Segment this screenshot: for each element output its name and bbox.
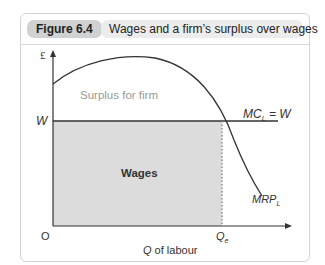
wages-region-label: Wages: [121, 167, 158, 179]
origin-label: O: [41, 230, 50, 242]
wage-label: W: [36, 114, 47, 128]
x-axis-arrow-icon: [285, 223, 292, 229]
y-axis-arrow-icon: [50, 50, 56, 57]
surplus-region-label: Surplus for firm: [80, 89, 158, 101]
diagram-canvas: [0, 0, 325, 265]
y-axis-label: £: [40, 49, 46, 61]
x-axis-label: Q of labour: [143, 244, 197, 256]
mc-label: MCL = W: [243, 107, 291, 122]
mrp-label: MRPL: [252, 193, 280, 207]
qe-label: Qe: [216, 230, 228, 244]
